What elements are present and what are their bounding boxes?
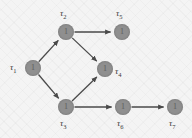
node-t4[interactable]: 1 <box>97 61 113 77</box>
node-t1-value: 1 <box>31 64 35 72</box>
node-label-t2: τ2 <box>60 9 66 20</box>
node-label-t1: τ1 <box>10 63 16 74</box>
node-t7[interactable]: 1 <box>167 99 183 115</box>
node-t4-value: 1 <box>103 65 107 73</box>
node-label-t4: τ4 <box>115 67 121 78</box>
edge-t1-t2 <box>39 40 59 61</box>
node-t2-value: 1 <box>64 28 68 36</box>
node-label-t6: τ6 <box>117 119 123 130</box>
node-label-t3: τ3 <box>60 119 66 130</box>
node-label-t5: τ5 <box>116 9 122 20</box>
edge-t2-t4 <box>72 38 97 61</box>
node-t3-value: 1 <box>64 103 68 111</box>
node-t5-value: 1 <box>120 28 124 36</box>
node-t5[interactable]: 1 <box>114 24 130 40</box>
node-t6[interactable]: 1 <box>115 99 131 115</box>
task-graph-diagram: 1 1 1 1 1 1 1 τ1 τ2 τ3 τ4 τ5 τ6 τ7 <box>0 0 192 138</box>
node-t2[interactable]: 1 <box>58 24 74 40</box>
node-t1[interactable]: 1 <box>25 60 41 76</box>
edge-t1-t3 <box>38 74 58 98</box>
node-t7-value: 1 <box>173 103 177 111</box>
edge-t3-t4 <box>72 77 97 101</box>
node-t3[interactable]: 1 <box>58 99 74 115</box>
node-label-t7: τ7 <box>169 119 175 130</box>
node-t6-value: 1 <box>121 103 125 111</box>
